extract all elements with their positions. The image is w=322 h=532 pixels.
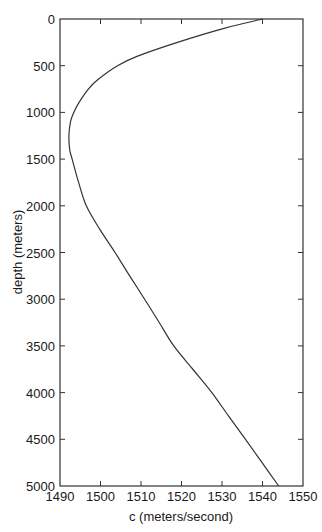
x-tick-label: 1530 [208, 489, 237, 504]
y-tick-label: 1000 [26, 105, 55, 120]
x-axis-label: c (meters/second) [129, 509, 233, 524]
x-tick-label: 1500 [86, 489, 115, 504]
y-tick-label: 2000 [26, 199, 55, 214]
y-tick-label: 4500 [26, 432, 55, 447]
x-tick-label: 1550 [289, 489, 318, 504]
plot-frame [60, 19, 303, 486]
x-tick-label: 1520 [167, 489, 196, 504]
y-tick-label: 2500 [26, 246, 55, 261]
y-tick-label: 500 [33, 59, 55, 74]
y-tick-label: 3000 [26, 292, 55, 307]
x-tick-label: 1540 [248, 489, 277, 504]
sound-speed-curve [69, 19, 279, 486]
x-tick-label: 1510 [127, 489, 156, 504]
y-tick-label: 3500 [26, 339, 55, 354]
sound-speed-profile-chart: 1490150015101520153015401550 05001000150… [0, 0, 322, 532]
y-tick-label: 1500 [26, 152, 55, 167]
y-tick-label: 0 [48, 12, 55, 27]
y-tick-label: 4000 [26, 386, 55, 401]
y-axis-ticks: 0500100015002000250030003500400045005000 [26, 12, 303, 494]
y-tick-label: 5000 [26, 479, 55, 494]
y-axis-label: depth (meters) [10, 210, 25, 295]
